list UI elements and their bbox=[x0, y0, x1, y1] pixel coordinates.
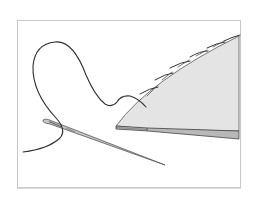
fabric bbox=[116, 36, 239, 139]
sewing-illustration bbox=[0, 0, 254, 206]
